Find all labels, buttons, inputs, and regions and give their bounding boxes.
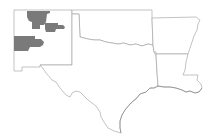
region-map: [0, 0, 214, 136]
map-container: [0, 0, 214, 136]
state-louisiana[interactable]: [156, 54, 202, 93]
state-arkansas[interactable]: [152, 17, 200, 54]
